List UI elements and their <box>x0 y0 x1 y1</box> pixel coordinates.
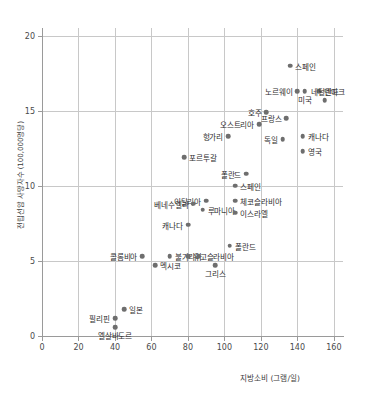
y-tick-label: 10 <box>20 181 35 190</box>
y-axis-title: 전립선암 사망자수 (100,000명당) <box>15 95 25 255</box>
y-tick-label: 20 <box>20 31 35 40</box>
x-tick <box>334 337 335 341</box>
data-point <box>281 137 286 142</box>
data-point <box>322 98 327 103</box>
gridline-horizontal <box>42 111 343 112</box>
gridline-vertical <box>188 28 189 336</box>
gridline-vertical <box>334 28 335 336</box>
data-point <box>113 325 118 330</box>
data-point <box>140 254 145 259</box>
gridline-vertical <box>151 28 152 336</box>
data-point <box>182 155 187 160</box>
data-point-label: 오스트리아 <box>220 119 254 130</box>
x-tick <box>78 337 79 341</box>
gridline-vertical <box>224 28 225 336</box>
data-point-label: 프랑스 <box>261 113 282 124</box>
data-point <box>302 89 307 94</box>
data-point-label: 콜롬비아 <box>110 251 137 262</box>
y-tick <box>38 261 42 262</box>
data-point-label: 포르투갈 <box>189 152 216 163</box>
y-tick-label: 5 <box>20 256 35 265</box>
data-point-label: 체코슬라비아 <box>240 195 281 206</box>
data-point-label: 그리스 <box>205 268 226 279</box>
data-point <box>233 183 238 188</box>
data-point <box>226 134 231 139</box>
gridline-vertical <box>297 28 298 336</box>
data-point <box>228 244 233 249</box>
data-point-label: 스페인 <box>240 180 261 191</box>
data-point <box>301 149 306 154</box>
data-point-label: 네덜란드 <box>311 86 338 97</box>
y-axis-line <box>42 28 43 336</box>
data-point <box>213 263 218 268</box>
x-tick-label: 100 <box>217 343 232 352</box>
data-point-label: 루마니아 <box>208 204 235 215</box>
x-tick-label: 120 <box>253 343 268 352</box>
y-tick <box>38 186 42 187</box>
x-tick <box>151 337 152 341</box>
x-tick-label: 160 <box>326 343 341 352</box>
data-point <box>153 263 158 268</box>
scatter-chart: 전립선암 사망자수 (100,000명당) 지방소비 (그램/일) 020406… <box>0 0 365 396</box>
data-point <box>301 134 306 139</box>
data-point-label: 노르웨이 <box>265 86 292 97</box>
gridline-vertical <box>115 28 116 336</box>
data-point-label: 캐나다 <box>308 131 329 142</box>
data-point-label: 미국 <box>298 94 312 105</box>
x-tick-label: 40 <box>110 343 120 352</box>
gridline-vertical <box>78 28 79 336</box>
data-point <box>244 171 249 176</box>
x-tick <box>297 337 298 341</box>
plot-area <box>42 28 343 336</box>
data-point <box>122 307 127 312</box>
gridline-horizontal <box>42 186 343 187</box>
data-point <box>284 116 289 121</box>
gridline-horizontal <box>42 36 343 37</box>
data-point <box>200 207 205 212</box>
y-tick-label: 0 <box>20 332 35 341</box>
x-tick-label: 140 <box>290 343 305 352</box>
x-tick-label: 60 <box>146 343 156 352</box>
data-point <box>167 254 172 259</box>
data-point <box>191 201 196 206</box>
x-tick <box>188 337 189 341</box>
data-point <box>257 122 262 127</box>
x-tick <box>261 337 262 341</box>
data-point-label: 베네수엘라 <box>154 198 188 209</box>
y-tick <box>38 111 42 112</box>
data-point <box>186 254 191 259</box>
y-tick <box>38 36 42 37</box>
data-point-label: 호주 <box>248 107 262 118</box>
x-tick-label: 20 <box>73 343 83 352</box>
data-point <box>113 316 118 321</box>
data-point <box>204 198 209 203</box>
data-point <box>288 63 293 68</box>
data-point <box>197 254 202 259</box>
data-point-label: 엘살바도르 <box>98 330 132 341</box>
x-tick <box>224 337 225 341</box>
data-point-label: 일본 <box>129 303 143 314</box>
data-point-label: 폴란드 <box>235 240 256 251</box>
x-tick-label: 0 <box>39 343 44 352</box>
data-point-label: 독일 <box>264 134 278 145</box>
data-point-label: 영국 <box>308 146 322 157</box>
data-point <box>233 198 238 203</box>
data-point-label: 폴란드 <box>221 168 242 179</box>
data-point-label: 스페인 <box>295 60 316 71</box>
y-tick-label: 15 <box>20 106 35 115</box>
x-tick <box>42 337 43 341</box>
data-point-label: 헝가리 <box>203 131 224 142</box>
y-tick <box>38 336 42 337</box>
x-axis-title: 지방소비 (그램/일) <box>240 372 300 383</box>
x-tick-label: 80 <box>183 343 193 352</box>
data-point <box>186 223 191 228</box>
data-point-label: 이스라엘 <box>240 207 267 218</box>
data-point-label: 필리핀 <box>89 312 110 323</box>
data-point <box>295 89 300 94</box>
data-point <box>233 211 238 216</box>
x-axis-line <box>42 336 344 337</box>
data-point-label: 캐나다 <box>162 219 183 230</box>
data-point-label: 멕시코 <box>160 260 181 271</box>
